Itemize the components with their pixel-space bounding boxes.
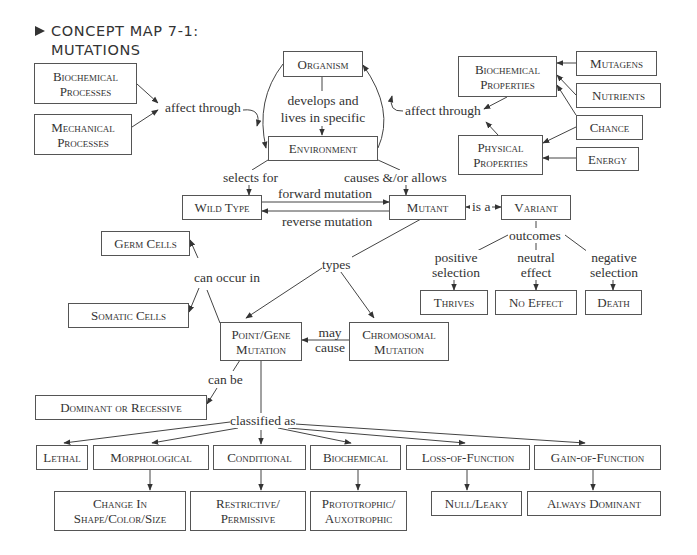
node-change-in-shape: Change In Shape/Color/Size bbox=[54, 491, 186, 531]
node-restrictive-permissive: Restrictive/ Permissive bbox=[190, 491, 306, 531]
node-physical-properties: Physical Properties bbox=[458, 135, 543, 175]
node-conditional: Conditional bbox=[213, 445, 306, 470]
link-forward-mutation: forward mutation bbox=[278, 186, 372, 201]
link-reverse-mutation: reverse mutation bbox=[282, 214, 372, 229]
node-chromosomal-mutation: Chromosomal Mutation bbox=[349, 322, 449, 361]
node-morphological: Morphological bbox=[93, 445, 209, 470]
link-may-cause: may cause bbox=[314, 325, 346, 355]
link-negative-selection: negative selection bbox=[586, 250, 642, 280]
link-causes-allows: causes &/or allows bbox=[344, 170, 447, 185]
node-lethal: Lethal bbox=[36, 445, 88, 470]
node-biochemical-properties: Biochemical Properties bbox=[458, 56, 557, 97]
node-organism: Organism bbox=[283, 51, 363, 77]
node-chance: Chance bbox=[576, 115, 643, 140]
link-is-a: is a bbox=[470, 199, 492, 214]
node-biochemical-processes: Biochemical Processes bbox=[34, 63, 137, 104]
node-mutagens: Mutagens bbox=[576, 51, 657, 76]
node-energy: Energy bbox=[576, 147, 639, 171]
node-mechanical-processes: Mechanical Processes bbox=[34, 114, 132, 155]
node-dominant-or-recessive: Dominant or Recessive bbox=[35, 395, 207, 420]
link-develops-and-lives: develops and lives in specific bbox=[276, 92, 370, 126]
node-no-effect: No Effect bbox=[495, 290, 577, 315]
node-biochemical: Biochemical bbox=[310, 445, 401, 470]
node-mutant: Mutant bbox=[389, 195, 466, 220]
node-point-gene-mutation: Point/Gene Mutation bbox=[220, 322, 302, 361]
link-can-be: can be bbox=[208, 372, 243, 387]
node-variant: Variant bbox=[501, 195, 571, 220]
link-types: types bbox=[322, 257, 351, 272]
link-classified-as: classified as bbox=[230, 413, 296, 428]
node-somatic-cells: Somatic Cells bbox=[68, 303, 189, 328]
node-death: Death bbox=[585, 290, 642, 315]
link-affect-through-left: affect through bbox=[165, 100, 241, 115]
node-gain-of-function: Gain-of-Function bbox=[534, 445, 661, 470]
node-thrives: Thrives bbox=[420, 290, 488, 315]
link-neutral-effect: neutral effect bbox=[513, 250, 559, 280]
link-affect-through-right: affect through bbox=[405, 103, 481, 118]
node-prototrophic-auxotrophic: Prototrophic/ Auxotrophic bbox=[310, 491, 407, 531]
link-selects-for: selects for bbox=[223, 170, 278, 185]
link-positive-selection: positive selection bbox=[430, 250, 482, 280]
node-wild-type: Wild Type bbox=[182, 195, 262, 220]
link-can-occur-in: can occur in bbox=[194, 270, 260, 285]
node-always-dominant: Always Dominant bbox=[527, 491, 661, 516]
node-nutrients: Nutrients bbox=[576, 83, 661, 108]
node-loss-of-function: Loss-of-Function bbox=[406, 445, 530, 470]
node-germ-cells: Germ Cells bbox=[101, 231, 190, 256]
node-environment: Environment bbox=[268, 136, 378, 161]
node-null-leaky: Null/Leaky bbox=[431, 491, 522, 516]
link-outcomes: outcomes bbox=[509, 228, 561, 243]
